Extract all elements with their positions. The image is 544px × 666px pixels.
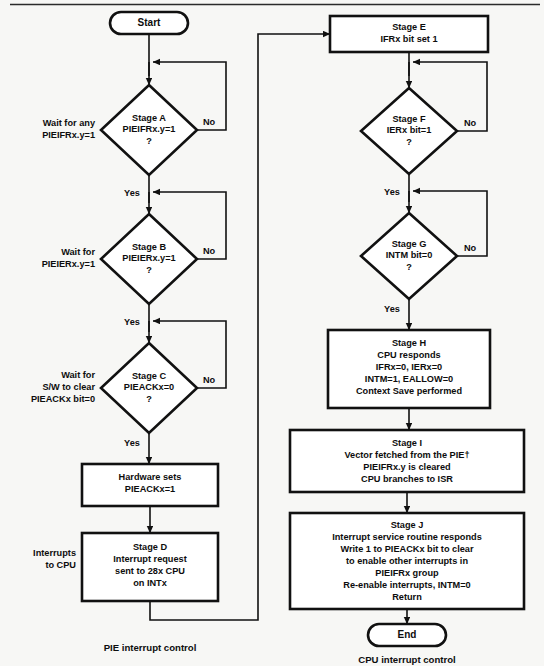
stage-c-no-label: No	[203, 375, 216, 385]
stage-d-line-3: sent to 28x CPU	[115, 566, 185, 576]
stage-b-line-3: ?	[146, 265, 152, 275]
figure-page: Start Stage A PIEIFRx.y=1 ? No Yes Stage…	[0, 0, 544, 666]
stage-i-line-2: Vector fetched from the PIE†	[344, 450, 469, 460]
stage-g-yes-label: Yes	[384, 304, 400, 314]
stage-j-line-5: PIEIFRx group	[375, 568, 439, 578]
stage-d-line-4: on INTx	[133, 578, 168, 588]
label-wait-sw-clear-line-1: Wait for	[61, 370, 95, 380]
stage-g-line-3: ?	[406, 262, 412, 272]
stage-h-line-1: Stage H	[392, 338, 427, 348]
stage-a-no-label: No	[203, 117, 216, 127]
stage-j-line-2: Interrupt service routine responds	[332, 532, 482, 542]
stage-i-line-3: PIEIFRx.y is cleared	[363, 462, 450, 472]
stage-c-line-3: ?	[146, 394, 152, 404]
footer-label-cpu: CPU interrupt control	[358, 654, 456, 665]
stage-a-yes-label: Yes	[124, 188, 140, 198]
stage-g-no-label: No	[464, 243, 477, 253]
stage-b-line-2: PIEIERx.y=1	[122, 253, 175, 263]
stage-e-line-1: Stage E	[392, 22, 426, 32]
label-wait-pieier-line-2: PIEIERx.y=1	[42, 259, 95, 269]
stage-c-line-1: Stage C	[132, 371, 167, 381]
stage-a-line-3: ?	[146, 136, 152, 146]
start-terminal-label: Start	[138, 17, 161, 28]
label-wait-pieier-line-1: Wait for	[61, 247, 95, 257]
label-wait-any-pieifr-line-1: Wait for any	[43, 118, 96, 128]
stage-i-line-4: CPU branches to ISR	[361, 474, 453, 484]
stage-g-line-1: Stage G	[392, 239, 427, 249]
hardware-sets-line-2: PIEACKx=1	[125, 484, 175, 494]
stage-c-line-2: PIEACKx=0	[124, 382, 174, 392]
stage-h-line-2: CPU responds	[377, 350, 440, 360]
stage-f-no-label: No	[464, 118, 477, 128]
stage-g-line-2: INTM bit=0	[386, 250, 433, 260]
stage-f-yes-label: Yes	[384, 187, 400, 197]
label-wait-sw-clear-line-3: PIEACKx bit=0	[31, 394, 95, 404]
stage-j-line-4: to enable other interrupts in	[346, 556, 468, 566]
label-wait-any-pieifr-line-2: PIEIFRx.y=1	[42, 130, 95, 140]
stage-a-line-1: Stage A	[132, 113, 166, 123]
stage-d-line-1: Stage D	[133, 542, 168, 552]
stage-j-line-7: Return	[392, 592, 422, 602]
flowchart-diagram: Start Stage A PIEIFRx.y=1 ? No Yes Stage…	[0, 0, 544, 666]
stage-b-no-label: No	[203, 246, 216, 256]
stage-f-line-2: IERx bit=1	[387, 125, 432, 135]
stage-b-line-1: Stage B	[132, 242, 167, 252]
stage-h-line-4: INTM=1, EALLOW=0	[365, 374, 453, 384]
stage-h-line-5: Context Save performed	[356, 386, 462, 396]
footer-label-pie: PIE interrupt control	[104, 642, 197, 653]
stage-c-yes-label: Yes	[124, 438, 140, 448]
end-terminal-label: End	[398, 629, 417, 640]
stage-f-line-1: Stage F	[392, 114, 426, 124]
stage-f-line-3: ?	[406, 137, 412, 147]
label-wait-sw-clear-line-2: S/W to clear	[42, 382, 95, 392]
stage-e-line-2: IFRx bit set 1	[380, 34, 437, 44]
stage-b-yes-label: Yes	[124, 317, 140, 327]
label-interrupts-to-cpu-line-1: Interrupts	[33, 548, 76, 558]
label-interrupts-to-cpu-line-2: to CPU	[45, 560, 76, 570]
stage-d-line-2: Interrupt request	[113, 554, 187, 564]
stage-j-line-6: Re-enable interrupts, INTM=0	[343, 580, 470, 590]
stage-i-line-1: Stage I	[392, 438, 422, 448]
stage-j-line-3: Write 1 to PIEACKx bit to clear	[340, 544, 473, 554]
stage-j-line-1: Stage J	[391, 520, 424, 530]
stage-a-line-2: PIEIFRx.y=1	[123, 124, 176, 134]
stage-h-line-3: IFRx=0, IERx=0	[376, 362, 442, 372]
hardware-sets-line-1: Hardware sets	[119, 472, 182, 482]
